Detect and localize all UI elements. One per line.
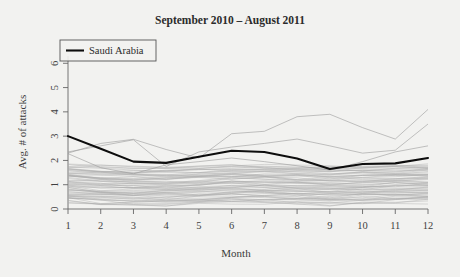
x-tick-label: 9: [327, 220, 332, 231]
x-tick-label: 2: [98, 220, 103, 231]
y-tick-label: 3: [49, 134, 60, 139]
x-tick-label: 1: [65, 220, 70, 231]
y-tick-label: 2: [49, 158, 60, 163]
background-series-band: [68, 164, 428, 206]
x-tick-label: 10: [357, 220, 368, 231]
x-tick-label: 8: [294, 220, 299, 231]
y-axis-label: Avg. # of attacks: [16, 95, 28, 169]
x-tick-label: 5: [196, 220, 201, 231]
y-tick-label: 5: [49, 85, 60, 90]
x-tick-label: 7: [262, 220, 267, 231]
y-tick-label: 4: [49, 108, 60, 114]
legend[interactable]: Saudi Arabia: [60, 40, 156, 61]
x-tick-label: 6: [229, 220, 234, 231]
chart-container: September 2010 – August 2011 0123456 123…: [0, 0, 460, 277]
y-tick-label: 6: [49, 61, 60, 66]
x-tick-label: 12: [423, 220, 434, 231]
x-tick-label: 3: [131, 220, 136, 231]
x-tick-label: 4: [164, 220, 170, 231]
legend-label-saudi-arabia: Saudi Arabia: [89, 45, 144, 56]
line-chart: September 2010 – August 2011 0123456 123…: [0, 0, 460, 277]
x-tick-label: 11: [390, 220, 400, 231]
chart-title: September 2010 – August 2011: [155, 14, 305, 27]
x-axis-label: Month: [221, 247, 251, 259]
y-tick-label: 1: [49, 182, 60, 187]
y-axis-ticks: 0123456: [49, 61, 68, 212]
y-tick-label: 0: [49, 206, 60, 211]
x-axis-ticks: 123456789101112: [65, 209, 433, 231]
